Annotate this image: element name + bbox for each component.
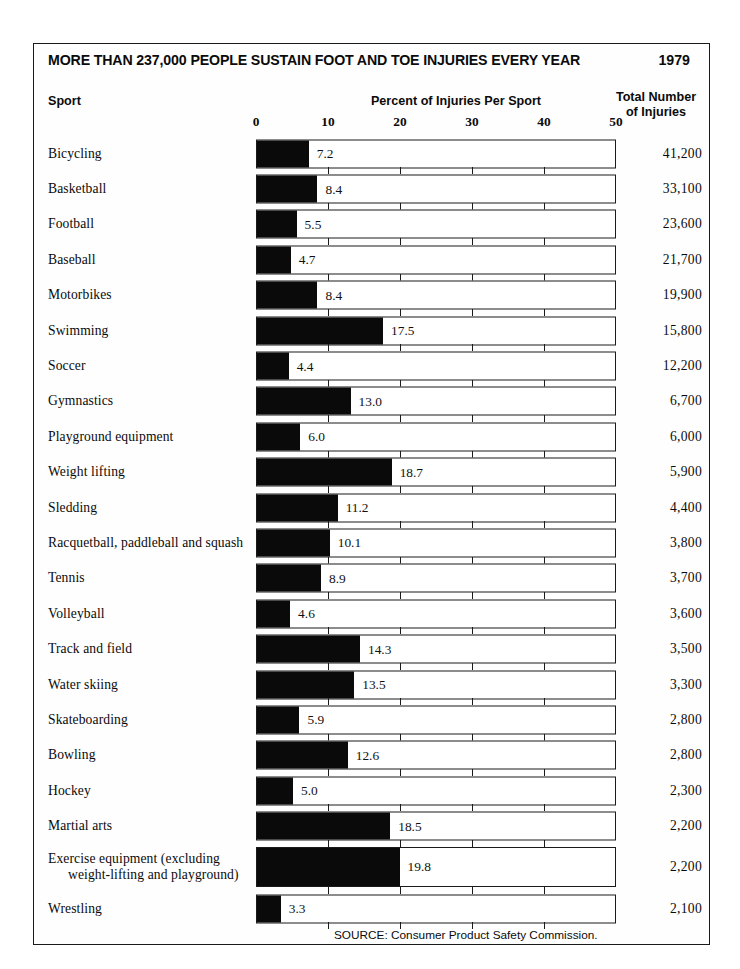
bar-track: 11.2: [256, 493, 616, 522]
bar-row: Track and field14.33,500: [34, 631, 711, 666]
x-axis: 01020304050: [34, 114, 711, 134]
bar-track: 5.0: [256, 776, 616, 805]
column-header-sport: Sport: [48, 94, 81, 108]
total-injuries-value: 4,400: [626, 490, 702, 525]
total-injuries-value: 2,200: [626, 808, 702, 843]
bar-row: Tennis8.93,700: [34, 561, 711, 596]
bar-track: 6.0: [256, 422, 616, 451]
bar-row: Bowling12.62,800: [34, 738, 711, 773]
bar-value-label: 10.1: [338, 535, 361, 551]
sport-label: Sledding: [48, 490, 254, 525]
bar-rows: Bicycling7.241,200Basketball8.433,100Foo…: [34, 136, 711, 926]
bar-value-label: 11.2: [346, 500, 369, 516]
title-row: MORE THAN 237,000 PEOPLE SUSTAIN FOOT AN…: [48, 52, 698, 76]
bar-track: 3.3: [256, 894, 616, 923]
bar-value-label: 18.5: [398, 818, 421, 834]
bar-value-label: 17.5: [391, 323, 414, 339]
bar-track: 4.7: [256, 245, 616, 274]
page-title: MORE THAN 237,000 PEOPLE SUSTAIN FOOT AN…: [48, 52, 580, 68]
bar-track: 17.5: [256, 316, 616, 345]
total-injuries-value: 2,800: [626, 738, 702, 773]
bar-row: Water skiing13.53,300: [34, 667, 711, 702]
total-injuries-value: 2,300: [626, 773, 702, 808]
bar-value-label: 4.7: [299, 252, 316, 268]
bar-fill: [257, 565, 321, 592]
bar-value-label: 8.9: [329, 570, 346, 586]
bar-row: Volleyball4.63,600: [34, 596, 711, 631]
bar-row: Playground equipment6.06,000: [34, 419, 711, 454]
sport-label: Motorbikes: [48, 278, 254, 313]
total-injuries-value: 2,100: [626, 891, 702, 926]
bar-track: 8.4: [256, 175, 616, 204]
bar-fill: [257, 848, 400, 886]
bar-row: Motorbikes8.419,900: [34, 278, 711, 313]
bar-track: 4.6: [256, 599, 616, 628]
x-tick-label: 50: [609, 114, 622, 130]
bar-fill: [257, 140, 309, 167]
bar-fill: [257, 636, 360, 663]
bar-track: 7.2: [256, 139, 616, 168]
bar-fill: [257, 317, 383, 344]
bar-fill: [257, 529, 330, 556]
bar-fill: [257, 777, 293, 804]
bar-fill: [257, 353, 289, 380]
bar-row: Sledding11.24,400: [34, 490, 711, 525]
sport-label: Bicycling: [48, 136, 254, 171]
bar-value-label: 6.0: [308, 429, 325, 445]
bar-row: Wrestling3.32,100: [34, 891, 711, 926]
bar-value-label: 13.0: [359, 393, 382, 409]
bar-track: 14.3: [256, 635, 616, 664]
bar-fill: [257, 671, 354, 698]
sport-label: Hockey: [48, 773, 254, 808]
bar-row: Bicycling7.241,200: [34, 136, 711, 171]
bar-track: 8.9: [256, 564, 616, 593]
chart-year: 1979: [658, 52, 698, 68]
sport-label: Martial arts: [48, 808, 254, 843]
sport-label: Football: [48, 207, 254, 242]
sport-label: Bowling: [48, 738, 254, 773]
total-injuries-value: 2,800: [626, 702, 702, 737]
total-injuries-value: 3,800: [626, 525, 702, 560]
bar-track: 4.4: [256, 352, 616, 381]
bar-value-label: 14.3: [368, 641, 391, 657]
total-injuries-value: 41,200: [626, 136, 702, 171]
sport-label: Playground equipment: [48, 419, 254, 454]
x-tick-label: 0: [253, 114, 260, 130]
total-injuries-value: 2,200: [626, 844, 702, 891]
bar-row: Gymnastics13.06,700: [34, 384, 711, 419]
sport-label-line2: weight-lifting and playground): [48, 867, 239, 883]
bar-value-label: 13.5: [362, 677, 385, 693]
x-tick-label: 40: [537, 114, 550, 130]
bar-fill: [257, 176, 317, 203]
sport-label: Water skiing: [48, 667, 254, 702]
bar-row: Baseball4.721,700: [34, 242, 711, 277]
bar-row: Basketball8.433,100: [34, 171, 711, 206]
column-header-total-line1: Total Number: [606, 90, 706, 105]
bar-track: 5.5: [256, 210, 616, 239]
total-injuries-value: 3,700: [626, 561, 702, 596]
bar-value-label: 5.9: [307, 712, 324, 728]
sport-label: Gymnastics: [48, 384, 254, 419]
bar-fill: [257, 459, 392, 486]
total-injuries-value: 15,800: [626, 313, 702, 348]
bar-value-label: 4.6: [298, 606, 315, 622]
bar-track: 13.0: [256, 387, 616, 416]
sport-label: Soccer: [48, 348, 254, 383]
sport-label: Skateboarding: [48, 702, 254, 737]
total-injuries-value: 6,700: [626, 384, 702, 419]
sport-label: Track and field: [48, 631, 254, 666]
bar-row: Swimming17.515,800: [34, 313, 711, 348]
total-injuries-value: 23,600: [626, 207, 702, 242]
total-injuries-value: 3,300: [626, 667, 702, 702]
bar-value-label: 12.6: [356, 747, 379, 763]
bar-track: 18.5: [256, 812, 616, 841]
bar-fill: [257, 388, 351, 415]
bar-track: 13.5: [256, 670, 616, 699]
total-injuries-value: 21,700: [626, 242, 702, 277]
bar-fill: [257, 706, 299, 733]
sport-label-line1: Exercise equipment (excluding: [48, 851, 220, 866]
chart-frame: MORE THAN 237,000 PEOPLE SUSTAIN FOOT AN…: [33, 43, 710, 945]
bar-fill: [257, 742, 348, 769]
bar-fill: [257, 282, 317, 309]
sport-label: Baseball: [48, 242, 254, 277]
